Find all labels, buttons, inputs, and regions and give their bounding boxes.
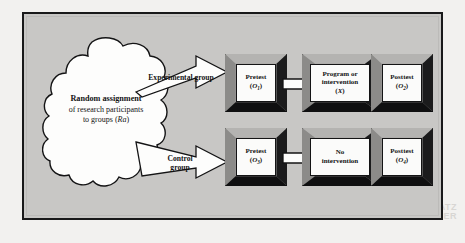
box-inner-face: Program or intervention (X) [310,64,369,102]
box-label: Posttest [390,147,413,156]
cloud-label-line-3-suffix: ) [126,115,129,124]
control-group-label: Control group [148,154,212,172]
box-pretest-control: Pretest (O3) [225,128,287,186]
box-posttest-control: Posttest (O4) [371,128,433,186]
figure-frame: Random assignment of research participan… [22,12,443,220]
box-label-line-2: intervention [322,78,359,87]
cloud-label: Random assignment of research participan… [50,94,162,126]
box-symbol: (O3) [250,156,262,167]
box-posttest-experimental-real: Posttest (O2) [371,54,433,112]
box-inner-face: Posttest (O2) [382,64,423,102]
box-label: Posttest [390,73,413,82]
box-pretest-experimental: Pretest (O1) [225,54,287,112]
experimental-group-label-text: Experimental group [148,73,213,82]
box-inner-face: No intervention [310,138,369,176]
box-symbol: (O1) [250,82,262,93]
cloud-label-line-3: to groups (Ra) [50,115,162,126]
box-symbol-subscript: 3 [257,159,260,165]
box-symbol-subscript: 1 [257,85,260,91]
box-symbol-subscript: 2 [403,85,406,91]
box-label-line-2: intervention [322,157,359,166]
box-label-line-1: Program or [322,70,357,79]
box-symbol-letter: X [338,87,343,95]
experimental-group-label: Experimental group [142,73,220,82]
box-label: Pretest [246,147,267,156]
box-label-line-1: No [336,148,345,157]
box-program-intervention: Program or intervention (X) [302,54,378,112]
box-label: Pretest [246,73,267,82]
cloud-label-line-2: of research participants [50,105,162,116]
control-group-label-line-1: Control [148,154,212,163]
box-symbol: (X) [335,87,344,96]
box-inner-face: Posttest (O4) [382,138,423,176]
control-group-label-line-2: group [148,163,212,172]
cloud-label-line-3-prefix: to groups ( [83,115,118,124]
box-symbol: (O4) [396,156,408,167]
box-symbol-subscript: 4 [403,159,406,165]
box-no-intervention: No intervention [302,128,378,186]
box-symbol: (O2) [396,82,408,93]
box-inner-face: Pretest (O3) [236,138,277,176]
box-inner-face: Pretest (O1) [236,64,277,102]
scanned-page: CATZ LISHER Random assignment of researc… [0,0,465,243]
